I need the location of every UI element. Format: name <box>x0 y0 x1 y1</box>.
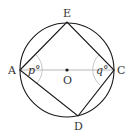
angle-label-p: p° <box>28 64 41 77</box>
circle-geometry-figure: E A C D O p° q° <box>0 0 132 136</box>
label-d: D <box>74 120 83 133</box>
label-o: O <box>63 74 72 87</box>
geometry-svg: E A C D O p° q° <box>0 0 132 136</box>
angle-label-q: q° <box>96 64 109 77</box>
label-e: E <box>63 7 71 20</box>
center-dot <box>65 68 68 71</box>
label-a: A <box>7 64 17 77</box>
label-c: C <box>117 64 125 77</box>
